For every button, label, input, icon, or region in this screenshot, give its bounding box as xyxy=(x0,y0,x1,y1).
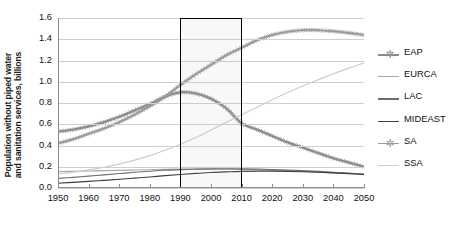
highlight-box xyxy=(180,18,241,188)
plot-area xyxy=(58,18,364,188)
x-tick-label: 1950 xyxy=(38,193,78,203)
y-tick-label: 1.2 xyxy=(24,55,52,65)
y-tick-label: 0.2 xyxy=(24,161,52,171)
legend-item-ssa[interactable]: SSA xyxy=(378,155,455,177)
legend-marker-icon: ✲ xyxy=(378,142,399,145)
legend-label: MIDEAST xyxy=(404,113,446,124)
legend-label: SSA xyxy=(404,157,423,168)
x-tick-label: 2040 xyxy=(313,193,353,203)
gridline xyxy=(58,188,364,189)
y-axis-title-line-1: Population without piped water xyxy=(3,52,14,179)
y-axis-title: Population without piped water and sanit… xyxy=(0,0,26,230)
legend-marker-icon xyxy=(378,164,399,167)
legend-asterisk-icon: ✲ xyxy=(386,49,395,60)
x-tick-label: 2050 xyxy=(344,193,384,203)
legend-label: EAP xyxy=(404,46,423,57)
y-tick-label: 1.0 xyxy=(24,76,52,86)
legend-label: LAC xyxy=(404,90,422,101)
x-tick-label: 1960 xyxy=(69,193,109,203)
y-tick-label: 0.4 xyxy=(24,140,52,150)
x-tick-label: 1970 xyxy=(99,193,139,203)
y-tick-label: 0.8 xyxy=(24,97,52,107)
x-axis-line xyxy=(58,187,364,188)
chart-figure: Population without piped water and sanit… xyxy=(0,0,455,230)
y-tick-label: 0.6 xyxy=(24,118,52,128)
x-tick xyxy=(364,184,365,188)
x-tick-label: 2010 xyxy=(222,193,262,203)
legend-marker-icon: ✲ xyxy=(378,53,399,56)
legend-marker-icon xyxy=(378,120,399,123)
legend-item-eurca[interactable]: EURCA xyxy=(378,66,455,88)
y-tick-label: 0.0 xyxy=(24,182,52,192)
legend-asterisk-icon: ✲ xyxy=(386,138,395,149)
x-tick-label: 2020 xyxy=(252,193,292,203)
chart-legend: ✲EAPEURCALACMIDEAST✲SASSA xyxy=(378,44,455,177)
y-tick-label: 1.6 xyxy=(24,12,52,22)
legend-item-eap[interactable]: ✲EAP xyxy=(378,44,455,66)
legend-marker-icon xyxy=(378,97,399,100)
x-tick-label: 2000 xyxy=(191,193,231,203)
y-axis-title-line-2: and sanitation services, billions xyxy=(13,52,24,179)
legend-marker-icon xyxy=(378,75,399,78)
x-tick-label: 1980 xyxy=(130,193,170,203)
legend-label: SA xyxy=(404,135,417,146)
legend-item-sa[interactable]: ✲SA xyxy=(378,133,455,155)
y-tick-label: 1.4 xyxy=(24,33,52,43)
x-tick-label: 2030 xyxy=(283,193,323,203)
legend-item-mideast[interactable]: MIDEAST xyxy=(378,111,455,133)
legend-label: EURCA xyxy=(404,68,437,79)
y-axis-line xyxy=(58,18,59,188)
legend-item-lac[interactable]: LAC xyxy=(378,88,455,110)
x-tick-label: 1990 xyxy=(160,193,200,203)
